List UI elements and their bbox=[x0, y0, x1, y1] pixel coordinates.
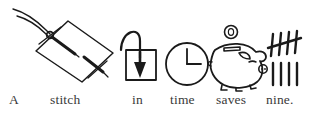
piggy-bank-icon bbox=[208, 26, 267, 92]
rebus-illustration: A stitch in time saves nine. bbox=[0, 0, 310, 118]
caption: A stitch in time saves nine. bbox=[0, 90, 310, 116]
caption-word-nine: nine. bbox=[266, 90, 294, 110]
caption-word-time: time bbox=[170, 90, 195, 110]
clock-icon bbox=[166, 43, 208, 85]
caption-word-in: in bbox=[132, 90, 143, 110]
needle-and-thread-icon bbox=[13, 9, 113, 82]
tally-marks-icon bbox=[268, 31, 301, 85]
caption-word-stitch: stitch bbox=[50, 90, 80, 110]
caption-word-a: A bbox=[9, 90, 19, 110]
caption-word-saves: saves bbox=[216, 90, 246, 110]
arrow-into-box-icon bbox=[121, 32, 156, 80]
